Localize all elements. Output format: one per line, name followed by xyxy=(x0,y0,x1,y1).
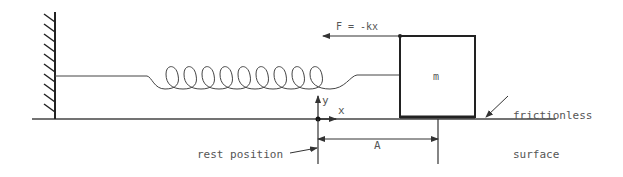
x-axis-label: x xyxy=(338,105,345,116)
amplitude-label: A xyxy=(374,140,381,151)
mass-label: m xyxy=(433,72,439,82)
rest-position-leader xyxy=(290,148,317,153)
surface-label-line2: surface xyxy=(513,148,592,161)
y-axis-label: y xyxy=(322,95,329,106)
surface-label-line1: frictionless xyxy=(513,109,592,122)
spring-mass-diagram: F = -kx m y x frictionless surface rest … xyxy=(0,0,623,177)
spring-icon xyxy=(55,67,400,89)
surface-label: frictionless surface xyxy=(513,83,592,177)
wall-icon xyxy=(44,12,55,119)
rest-position-label: rest position xyxy=(197,149,283,160)
surface-leader xyxy=(486,96,508,117)
force-label: F = -kx xyxy=(336,22,378,32)
